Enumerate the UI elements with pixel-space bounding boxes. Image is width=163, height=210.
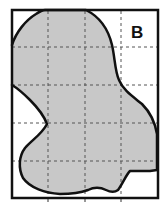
diagram-panel: B xyxy=(0,0,163,210)
panel-label: B xyxy=(131,24,143,41)
bottom-tick-marks xyxy=(48,199,121,202)
